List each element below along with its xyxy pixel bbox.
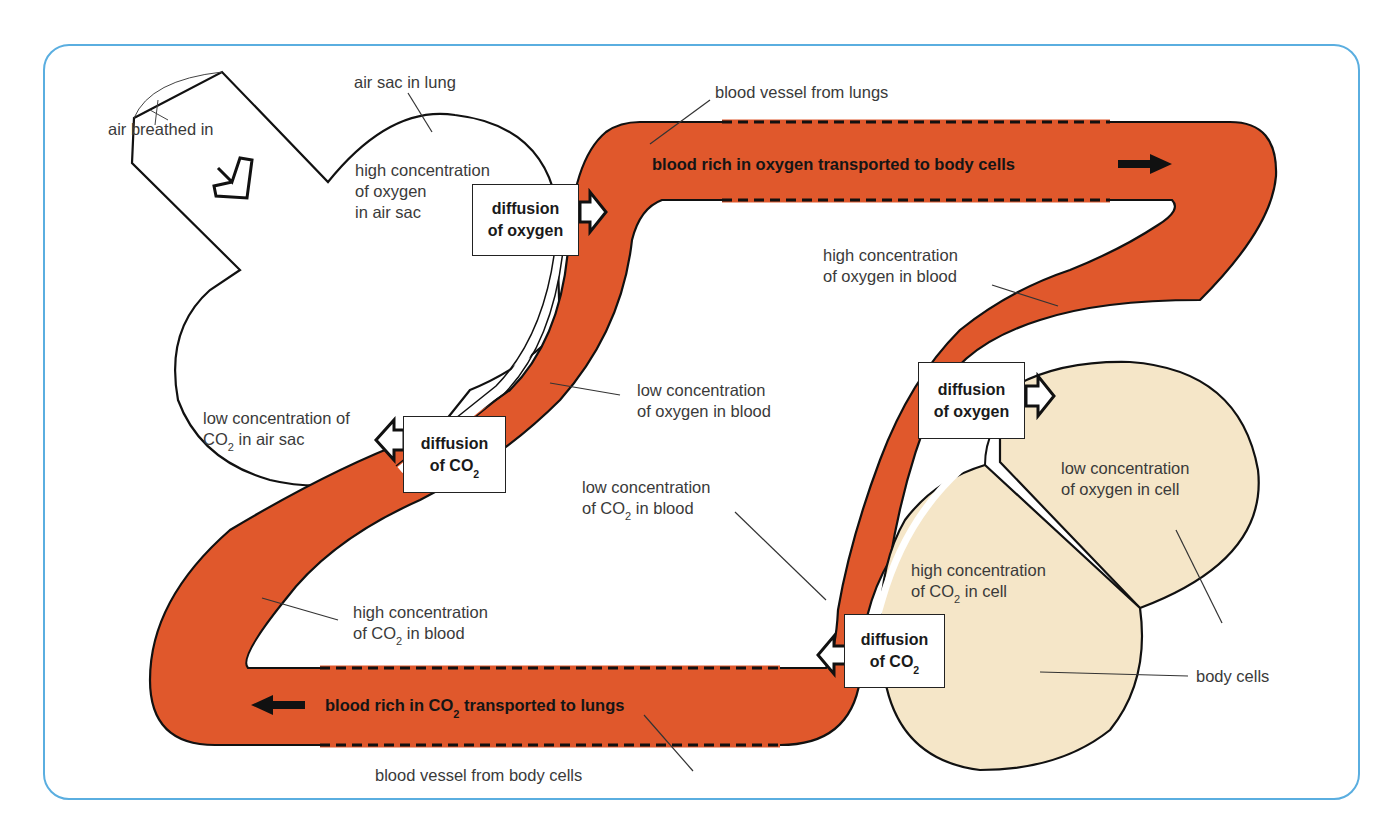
box-lung-oxygen-diffusion: diffusion of oxygen bbox=[472, 184, 579, 256]
box-lung-co2-diffusion: diffusion of CO2 bbox=[403, 416, 506, 493]
label-body-cells: body cells bbox=[1196, 666, 1269, 687]
label-high-co2-cell: high concentration of CO2 in cell bbox=[911, 560, 1046, 602]
box-cell-oxygen-diffusion: diffusion of oxygen bbox=[918, 362, 1025, 439]
label-low-co2-blood: low concentration of CO2 in blood bbox=[582, 477, 710, 519]
box-cell-co2-diffusion: diffusion of CO2 bbox=[844, 614, 945, 688]
label-low-oxygen-cell: low concentration of oxygen in cell bbox=[1061, 458, 1189, 500]
flow-label-co2-to-lungs: blood rich in CO2 transported to lungs bbox=[325, 696, 624, 715]
label-low-co2-air-sac: low concentration of CO2 in air sac bbox=[203, 408, 350, 450]
label-air-sac-in-lung: air sac in lung bbox=[354, 72, 456, 93]
label-low-oxygen-blood: low concentration of oxygen in blood bbox=[637, 380, 771, 422]
label-high-oxygen-blood: high concentration of oxygen in blood bbox=[823, 245, 958, 287]
label-high-oxygen-air-sac: high concentration of oxygen in air sac bbox=[355, 160, 490, 223]
label-blood-vessel-from-lungs: blood vessel from lungs bbox=[715, 82, 888, 103]
label-blood-vessel-from-body-cells: blood vessel from body cells bbox=[375, 765, 582, 786]
flow-label-oxygen-to-cells: blood rich in oxygen transported to body… bbox=[652, 155, 1015, 174]
label-air-breathed-in: air breathed in bbox=[108, 119, 214, 140]
label-high-co2-blood: high concentration of CO2 in blood bbox=[353, 602, 488, 644]
